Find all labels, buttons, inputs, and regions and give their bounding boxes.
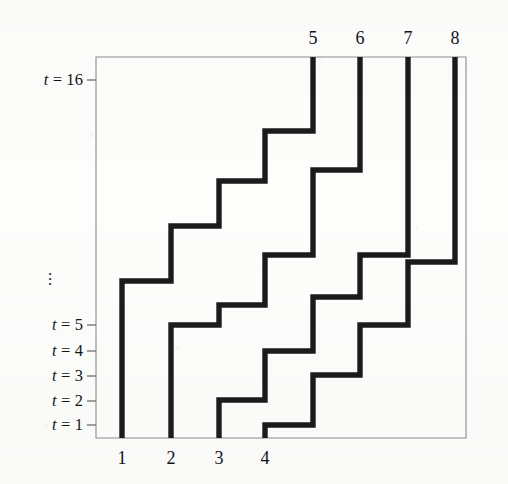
top-endpoint-label-6: 6 (349, 29, 371, 47)
bottom-endpoint-label-2: 2 (160, 449, 182, 467)
axis-tick-group (87, 80, 96, 425)
bottom-endpoint-label-1: 1 (111, 449, 133, 467)
bottom-endpoint-label-4: 4 (254, 449, 276, 467)
time-label-t-5: t = 5 (52, 317, 83, 334)
time-label-t-4: t = 4 (52, 343, 83, 360)
time-label-t-1: t = 1 (52, 417, 83, 434)
bottom-endpoint-label-3: 3 (208, 449, 230, 467)
top-endpoint-label-7: 7 (397, 29, 419, 47)
time-label-t-2: t = 2 (52, 393, 83, 410)
figure-root: t = 16t = 5t = 4t = 3t = 2t = 1 · · · 12… (0, 0, 508, 484)
top-endpoint-label-8: 8 (444, 29, 466, 47)
time-label-t-16: t = 16 (44, 72, 83, 89)
lattice-paths-group (122, 57, 455, 438)
top-endpoint-label-5: 5 (302, 29, 324, 47)
lattice-path-1-to-5 (122, 57, 313, 438)
ellipsis-dot: · (43, 282, 57, 287)
time-label-t-3: t = 3 (52, 368, 83, 385)
vertical-ellipsis: · · · (43, 272, 57, 287)
